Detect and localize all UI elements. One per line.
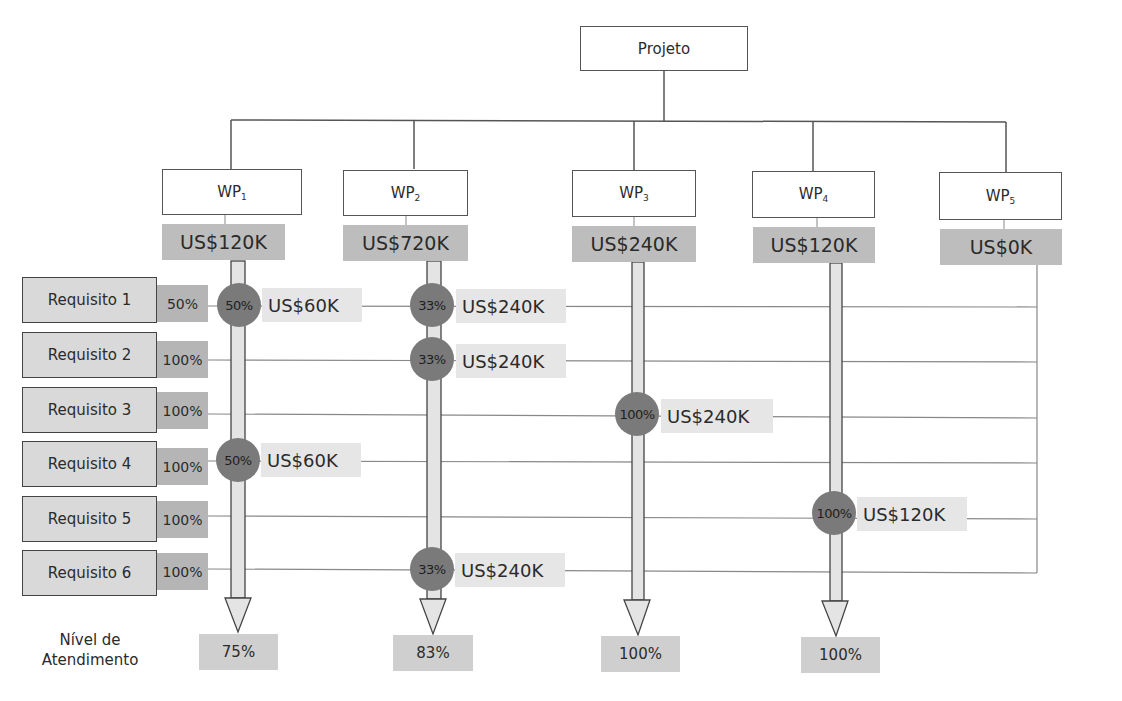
wp-node-1: WP1 — [162, 169, 302, 215]
requirement-4-pct: 100% — [157, 448, 208, 485]
requirement-2: Requisito 2 — [22, 332, 157, 378]
wp-cost-1: US$120K — [162, 224, 285, 260]
requirement-3: Requisito 3 — [22, 387, 157, 433]
wp-label: WP4 — [799, 185, 829, 204]
allocation-amount-wp1-req1: US$60K — [262, 288, 362, 322]
allocation-circle-wp3-req3: 100% — [615, 392, 659, 436]
allocation-circle-wp2-req1: 33% — [410, 283, 454, 327]
wp-result-4: 100% — [801, 637, 880, 673]
wp-result-2: 83% — [393, 635, 473, 671]
wp-label: WP1 — [217, 183, 247, 202]
requirement-3-pct: 100% — [157, 392, 208, 429]
allocation-amount-wp2-req2: US$240K — [456, 344, 566, 378]
project-label: Projeto — [638, 40, 690, 58]
allocation-circle-wp4-req5: 100% — [812, 491, 856, 535]
allocation-circle-wp2-req2: 33% — [410, 337, 454, 381]
wp-result-3: 100% — [601, 636, 680, 672]
allocation-amount-wp2-req6: US$240K — [455, 553, 565, 587]
requirement-2-pct: 100% — [157, 341, 208, 378]
wp-node-5: WP5 — [939, 172, 1062, 220]
footer-label: Nível de Atendimento — [30, 630, 150, 670]
allocation-amount-wp1-req4: US$60K — [261, 443, 361, 477]
allocation-amount-wp2-req1: US$240K — [456, 289, 566, 323]
wp-node-4: WP4 — [752, 171, 875, 218]
requirement-1-pct: 50% — [157, 285, 208, 322]
wp-label: WP3 — [619, 184, 649, 203]
requirement-5: Requisito 5 — [22, 496, 157, 542]
project-node: Projeto — [580, 26, 748, 71]
allocation-amount-wp3-req3: US$240K — [661, 399, 773, 433]
requirement-4: Requisito 4 — [22, 441, 157, 487]
wp-label: WP5 — [986, 187, 1016, 206]
wp-label: WP2 — [391, 184, 421, 203]
wp-node-2: WP2 — [343, 170, 468, 216]
requirement-1: Requisito 1 — [22, 277, 157, 323]
wp-result-1: 75% — [199, 634, 278, 670]
allocation-amount-wp4-req5: US$120K — [857, 497, 967, 531]
wp-cost-3: US$240K — [572, 226, 696, 262]
allocation-circle-wp1-req1: 50% — [217, 283, 261, 327]
requirement-6-pct: 100% — [157, 553, 208, 590]
wp-node-3: WP3 — [572, 170, 696, 217]
requirement-5-pct: 100% — [157, 501, 208, 538]
wp-cost-2: US$720K — [343, 225, 468, 261]
wp-cost-5: US$0K — [940, 229, 1062, 265]
requirement-6: Requisito 6 — [22, 550, 157, 596]
allocation-circle-wp2-req6: 33% — [410, 547, 454, 591]
wp-cost-4: US$120K — [753, 227, 875, 263]
allocation-circle-wp1-req4: 50% — [216, 438, 260, 482]
